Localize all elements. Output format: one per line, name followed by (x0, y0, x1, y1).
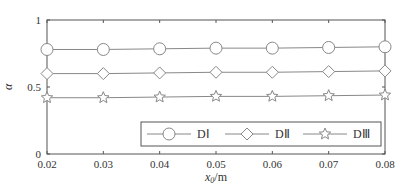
x-tick-label: 0.05 (206, 158, 226, 170)
star-marker-icon (323, 90, 334, 101)
circle-marker-icon (266, 42, 278, 54)
y-tick-label: 0 (36, 148, 42, 160)
circle-marker-icon (379, 41, 391, 53)
x-axis-label: x0/m (204, 170, 228, 185)
diamond-marker-icon (323, 66, 335, 78)
x-tick-label: 0.04 (150, 158, 170, 170)
circle-marker-icon (323, 41, 335, 53)
circle-marker-icon (41, 43, 53, 55)
series-group (41, 41, 391, 103)
y-tick-label: 1 (36, 14, 42, 26)
legend-label: DⅢ (353, 127, 370, 141)
star-marker-icon (379, 89, 390, 100)
legend: DⅠDⅡDⅢ (141, 122, 381, 146)
legend-label: DⅡ (275, 127, 290, 141)
circle-marker-icon (154, 43, 166, 55)
star-marker-icon (41, 92, 52, 103)
circle-marker-icon (210, 42, 222, 54)
x-tick-label: 0.07 (319, 158, 339, 170)
circle-marker-icon (97, 43, 109, 55)
y-tick-label: 0.5 (27, 81, 41, 93)
star-marker-icon (154, 91, 165, 102)
star-marker-icon (98, 92, 109, 103)
chart: 0.020.030.040.050.060.070.0800.51 DⅠDⅡDⅢ… (0, 0, 407, 189)
diamond-marker-icon (210, 66, 222, 78)
x-tick-label: 0.03 (94, 158, 114, 170)
star-marker-icon (210, 90, 221, 101)
circle-marker-icon (163, 128, 175, 140)
legend-label: DⅠ (197, 127, 210, 141)
plot-area: 0.020.030.040.050.060.070.0800.51 (27, 14, 395, 170)
x-tick-label: 0.08 (375, 158, 395, 170)
diamond-marker-icon (41, 68, 53, 80)
diamond-marker-icon (379, 65, 391, 77)
diamond-marker-icon (97, 68, 109, 80)
x-tick-label: 0.06 (263, 158, 283, 170)
star-marker-icon (267, 90, 278, 101)
y-axis-label: α (1, 83, 15, 90)
diamond-marker-icon (266, 66, 278, 78)
diamond-marker-icon (154, 67, 166, 79)
